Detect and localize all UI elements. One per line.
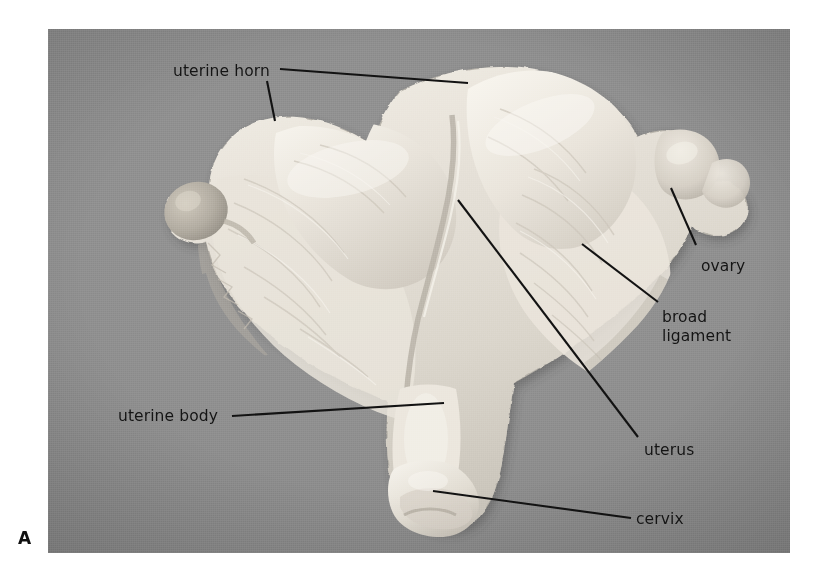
label-uterine-horn: uterine horn — [173, 62, 270, 81]
label-broad-ligament: broad ligament — [662, 308, 731, 346]
label-ovary: ovary — [701, 257, 745, 276]
photo-grain — [48, 29, 790, 553]
label-cervix: cervix — [636, 510, 684, 529]
label-uterine-body: uterine body — [118, 407, 218, 426]
label-uterus: uterus — [644, 441, 694, 460]
specimen-photograph: uterine hornovarybroad ligamentuterusute… — [48, 29, 790, 553]
panel-letter: A — [18, 528, 31, 548]
figure-root: uterine hornovarybroad ligamentuterusute… — [0, 0, 823, 574]
